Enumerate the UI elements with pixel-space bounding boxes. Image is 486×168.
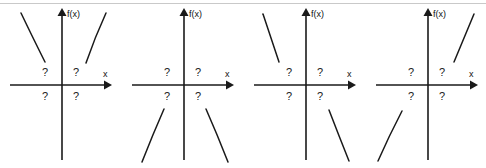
quadrant-mark-top-left: ?: [408, 66, 414, 78]
quadrant-mark-bottom-left: ?: [408, 90, 414, 102]
end-behavior-figure: f(x) x ? ? ? ? f(x) x ? ? ? ?: [0, 0, 486, 168]
quadrant-mark-top-right: ?: [439, 66, 445, 78]
y-axis-label: f(x): [67, 9, 80, 19]
y-axis-label: f(x): [311, 9, 324, 19]
quadrant-mark-bottom-left: ?: [42, 90, 48, 102]
quadrant-mark-top-left: ?: [42, 66, 48, 78]
left-branch-curve: [263, 14, 279, 62]
x-axis-label: x: [347, 69, 352, 79]
quadrant-mark-bottom-right: ?: [195, 90, 201, 102]
y-axis-arrowhead: [180, 8, 189, 16]
panel-both-ends-down: f(x) x ? ? ? ?: [122, 0, 244, 168]
quadrant-mark-bottom-right: ?: [73, 90, 79, 102]
y-axis-label: f(x): [189, 9, 202, 19]
y-axis-arrowhead: [58, 8, 67, 16]
y-axis-arrowhead: [302, 8, 311, 16]
right-branch-curve: [329, 110, 349, 161]
x-axis-arrowhead: [226, 81, 234, 90]
panel-both-ends-up: f(x) x ? ? ? ?: [0, 0, 122, 168]
panel-2-canvas: f(x) x ? ? ? ?: [122, 0, 244, 168]
right-branch-curve: [206, 109, 228, 162]
y-axis-label: f(x): [433, 9, 446, 19]
quadrant-mark-top-left: ?: [164, 66, 170, 78]
quadrant-mark-bottom-left: ?: [164, 90, 170, 102]
panel-down-left-up-right: f(x) x ? ? ? ?: [366, 0, 486, 168]
x-axis-arrowhead: [348, 81, 356, 90]
right-branch-curve: [454, 14, 474, 62]
quadrant-mark-top-left: ?: [286, 66, 292, 78]
panel-up-left-down-right: f(x) x ? ? ? ?: [244, 0, 366, 168]
quadrant-mark-bottom-right: ?: [439, 90, 445, 102]
left-branch-curve: [378, 111, 402, 161]
left-branch-curve: [142, 109, 164, 162]
x-axis-label: x: [225, 69, 230, 79]
quadrant-mark-bottom-left: ?: [286, 90, 292, 102]
x-axis-label: x: [103, 69, 108, 79]
y-axis-arrowhead: [424, 8, 433, 16]
quadrant-mark-top-right: ?: [195, 66, 201, 78]
quadrant-mark-top-right: ?: [73, 66, 79, 78]
panel-4-canvas: f(x) x ? ? ? ?: [366, 0, 486, 168]
right-branch-curve: [86, 13, 106, 63]
x-axis-arrowhead: [104, 81, 112, 90]
panel-3-canvas: f(x) x ? ? ? ?: [244, 0, 366, 168]
left-branch-curve: [21, 13, 45, 62]
panel-1-canvas: f(x) x ? ? ? ?: [0, 0, 122, 168]
x-axis-label: x: [469, 69, 474, 79]
quadrant-mark-bottom-right: ?: [317, 90, 323, 102]
quadrant-mark-top-right: ?: [317, 66, 323, 78]
x-axis-arrowhead: [470, 81, 478, 90]
